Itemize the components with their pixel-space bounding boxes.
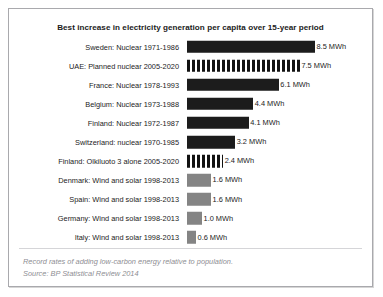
bar-value-label: 0.6 MWh [196, 233, 227, 242]
bar-row-label: France: Nuclear 1978-1993 [9, 80, 179, 89]
bar-value-label: 1.6 MWh [211, 176, 242, 185]
bar-value-label: 1.0 MWh [202, 214, 233, 223]
bar-row: Italy: Wind and solar 1998-20130.6 MWh [9, 228, 372, 247]
bar [187, 136, 235, 149]
bar-value-label: 4.1 MWh [249, 118, 280, 127]
footer-divider [19, 248, 362, 249]
bar [187, 174, 211, 187]
footer-caption: Record rates of adding low-carbon energy… [23, 256, 360, 268]
bar-row: Switzerland: nuclear 1970-19853.2 MWh [9, 132, 372, 151]
bar-value-label: 4.4 MWh [253, 99, 284, 108]
bar-row-label: Germany: Wind and solar 1998-2013 [9, 214, 179, 223]
bar-value-label: 8.5 MWh [315, 42, 346, 51]
bar-track: 1.0 MWh [187, 212, 368, 225]
bar-value-label: 6.1 MWh [279, 80, 310, 89]
bar-track: 3.2 MWh [187, 136, 368, 149]
bar-rows-container: Sweden: Nuclear 1971-19868.5 MWhUAE: Pla… [9, 37, 372, 247]
bar-row: Denmark: Wind and solar 1998-20131.6 MWh [9, 171, 372, 190]
bar-row-label: Belgium: Nuclear 1973-1988 [9, 99, 179, 108]
bar [187, 59, 300, 72]
bar-row-label: Finland: Olkiluoto 3 alone 2005-2020 [9, 157, 179, 166]
bar-value-label: 1.6 MWh [211, 195, 242, 204]
bar [187, 78, 279, 91]
bar-track: 1.6 MWh [187, 174, 368, 187]
chart-title: Best increase in electricity generation … [9, 23, 372, 32]
bar [187, 231, 196, 244]
bar [187, 155, 223, 168]
bar-value-label: 3.2 MWh [235, 138, 266, 147]
bar-track: 7.5 MWh [187, 59, 368, 72]
bar-row: Germany: Wind and solar 1998-20131.0 MWh [9, 209, 372, 228]
bar-row: UAE: Planned nuclear 2005-20207.5 MWh [9, 56, 372, 75]
bar-row-label: Switzerland: nuclear 1970-1985 [9, 138, 179, 147]
bar-row: Spain: Wind and solar 1998-20131.6 MWh [9, 190, 372, 209]
bar-row-label: Finland: Nuclear 1972-1987 [9, 118, 179, 127]
chart-footer: Record rates of adding low-carbon energy… [23, 256, 360, 279]
bar-row-label: Italy: Wind and solar 1998-2013 [9, 233, 179, 242]
bar-value-label: 2.4 MWh [223, 157, 254, 166]
bar [187, 117, 249, 130]
bar-track: 0.6 MWh [187, 231, 368, 244]
bar-row-label: Sweden: Nuclear 1971-1986 [9, 42, 179, 51]
bar-track: 4.1 MWh [187, 117, 368, 130]
bar-track: 8.5 MWh [187, 40, 368, 53]
chart-plot-area: Best increase in electricity generation … [9, 9, 372, 240]
bar [187, 40, 315, 53]
chart-figure: Best increase in electricity generation … [8, 8, 373, 287]
bar [187, 98, 253, 111]
bar-track: 2.4 MWh [187, 155, 368, 168]
bar-row-label: Denmark: Wind and solar 1998-2013 [9, 176, 179, 185]
bar-row: France: Nuclear 1978-19936.1 MWh [9, 75, 372, 94]
bar-row: Sweden: Nuclear 1971-19868.5 MWh [9, 37, 372, 56]
bar-row: Belgium: Nuclear 1973-19884.4 MWh [9, 94, 372, 113]
bar-track: 1.6 MWh [187, 193, 368, 206]
bar-track: 4.4 MWh [187, 98, 368, 111]
bar [187, 193, 211, 206]
bar-track: 6.1 MWh [187, 78, 368, 91]
bar-value-label: 7.5 MWh [300, 61, 331, 70]
bar-row-label: Spain: Wind and solar 1998-2013 [9, 195, 179, 204]
bar-row: Finland: Olkiluoto 3 alone 2005-20202.4 … [9, 152, 372, 171]
bar [187, 212, 202, 225]
bar-row: Finland: Nuclear 1972-19874.1 MWh [9, 113, 372, 132]
footer-source: Source: BP Statistical Review 2014 [23, 268, 360, 280]
bar-row-label: UAE: Planned nuclear 2005-2020 [9, 61, 179, 70]
